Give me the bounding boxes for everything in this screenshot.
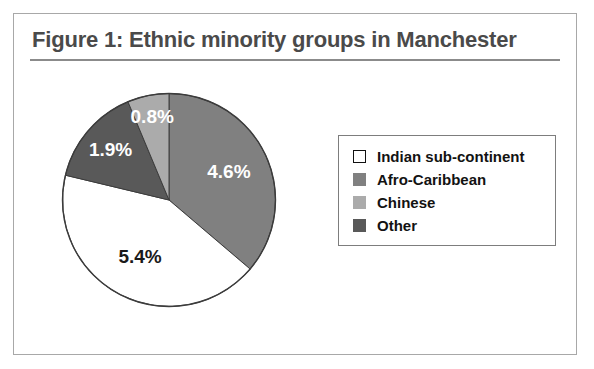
legend-item-label: Other	[377, 218, 417, 233]
legend-item[interactable]: Other	[353, 214, 555, 237]
legend-swatch-icon	[353, 173, 366, 186]
legend-swatch-icon	[353, 196, 366, 209]
legend-item[interactable]: Indian sub-continent	[353, 145, 555, 168]
legend-item[interactable]: Afro-Caribbean	[353, 168, 555, 191]
legend-item-label: Indian sub-continent	[377, 149, 525, 164]
pie-chart: 4.6%5.4%1.9%0.8%	[61, 92, 277, 308]
chart-legend: Indian sub-continentAfro-CaribbeanChines…	[338, 135, 556, 246]
legend-swatch-icon	[353, 150, 366, 163]
pie-slice-value-label: 5.4%	[118, 246, 161, 268]
legend-item-label: Afro-Caribbean	[377, 172, 486, 187]
pie-slice-value-label: 0.8%	[131, 106, 174, 128]
pie-slice-value-label: 4.6%	[207, 161, 250, 183]
legend-item[interactable]: Chinese	[353, 191, 555, 214]
pie-slice-value-label: 1.9%	[89, 139, 132, 161]
legend-item-label: Chinese	[377, 195, 435, 210]
chart-plot-area: 4.6%5.4%1.9%0.8% Indian sub-continentAfr…	[14, 14, 578, 356]
legend-swatch-icon	[353, 219, 366, 232]
figure-frame: Figure 1: Ethnic minority groups in Manc…	[13, 13, 577, 355]
